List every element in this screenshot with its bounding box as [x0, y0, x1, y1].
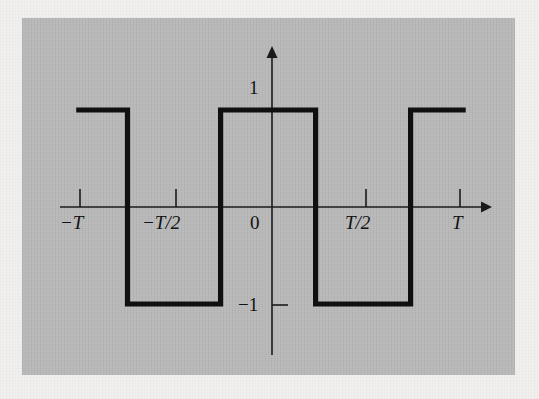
x-axis-label-T-half: T/2 [345, 213, 370, 232]
figure-root: −T −T/2 T/2 T 0 1 −1 [0, 0, 539, 399]
y-axis-arrow-icon [267, 46, 278, 58]
x-axis-label-T: T [452, 213, 463, 232]
x-axis-arrow-icon [481, 202, 492, 213]
plot-canvas [0, 0, 539, 399]
x-axis-label-minus-T-half: −T/2 [142, 213, 180, 232]
y-axis-label-minus-one: −1 [238, 295, 258, 314]
y-axis-label-one: 1 [249, 78, 259, 97]
x-axis-label-minus-T: −T [60, 213, 83, 232]
origin-label-zero: 0 [250, 213, 260, 232]
